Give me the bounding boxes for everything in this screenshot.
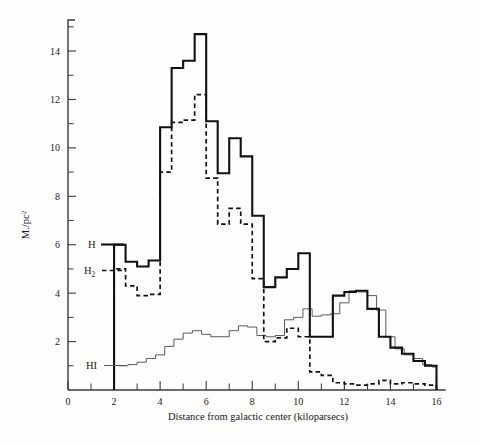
x-axis-title: Distance from galactic center (kiloparse… bbox=[168, 411, 349, 423]
y-axis-title-exponent: 2 bbox=[20, 210, 28, 214]
x-ticklabel: 14 bbox=[385, 396, 395, 407]
y-ticklabel: 6 bbox=[55, 239, 60, 250]
gas-surface-density-chart: 2468101214 0246810121416 M./pc2 Distance… bbox=[0, 0, 480, 445]
x-ticklabel: 4 bbox=[158, 396, 163, 407]
y-ticklabel: 8 bbox=[55, 191, 60, 202]
x-ticklabel: 16 bbox=[431, 396, 441, 407]
y-ticklabel: 10 bbox=[50, 142, 60, 153]
y-axis-title-main: M./pc bbox=[20, 214, 31, 239]
x-ticklabel: 6 bbox=[204, 396, 209, 407]
x-ticklabel: 12 bbox=[339, 396, 349, 407]
x-ticklabel: 2 bbox=[112, 396, 117, 407]
y-ticklabel: 2 bbox=[55, 336, 60, 347]
x-ticklabel: 8 bbox=[250, 396, 255, 407]
y-axis-title: M./pc2 bbox=[20, 210, 31, 239]
y-ticklabel: 14 bbox=[50, 46, 60, 57]
series-label-h: H bbox=[88, 239, 96, 250]
figure-container: 2468101214 0246810121416 M./pc2 Distance… bbox=[0, 0, 480, 445]
series-label-hi: HI bbox=[86, 360, 98, 371]
x-ticklabel: 0 bbox=[66, 396, 71, 407]
y-ticklabel: 4 bbox=[55, 288, 60, 299]
x-ticklabel: 10 bbox=[293, 396, 303, 407]
series-label-h2-sub: 2 bbox=[92, 270, 96, 279]
y-ticklabel: 12 bbox=[50, 94, 60, 105]
